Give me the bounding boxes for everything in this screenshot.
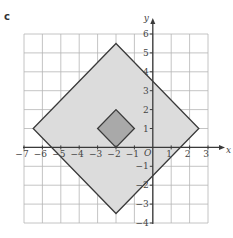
y-axis-arrow-icon [150,18,155,24]
x-axis-arrow-icon [219,145,225,150]
x-tick-label: −7 [15,149,29,159]
x-tick-label: −6 [34,149,48,159]
y-tick-label: 6 [143,29,149,39]
shapes-layer [33,43,199,213]
x-tick-label: −2 [107,149,120,159]
y-tick-label: 3 [143,86,149,96]
y-tick-label: −1 [136,161,149,171]
x-tick-label: −5 [52,149,66,159]
y-tick-label: −3 [136,199,150,209]
y-axis-label: y [143,13,150,23]
y-tick-label: −4 [136,218,150,228]
x-tick-label: 3 [203,149,209,159]
x-tick-label: 1 [166,149,172,159]
coordinate-grid-figure: −7−6−5−4−3−2−1123654321−1−2−3−4xyO [0,0,233,238]
x-tick-label: −4 [71,149,85,159]
x-tick-label: 2 [185,149,191,159]
y-tick-label: −2 [136,180,149,190]
origin-label: O [144,148,152,158]
x-tick-label: −1 [126,149,139,159]
y-tick-label: 1 [143,124,149,134]
x-tick-label: −3 [89,149,103,159]
y-tick-label: 2 [143,105,149,115]
y-tick-label: 5 [143,48,149,58]
x-axis-label: x [226,145,231,155]
y-tick-label: 4 [143,67,149,77]
